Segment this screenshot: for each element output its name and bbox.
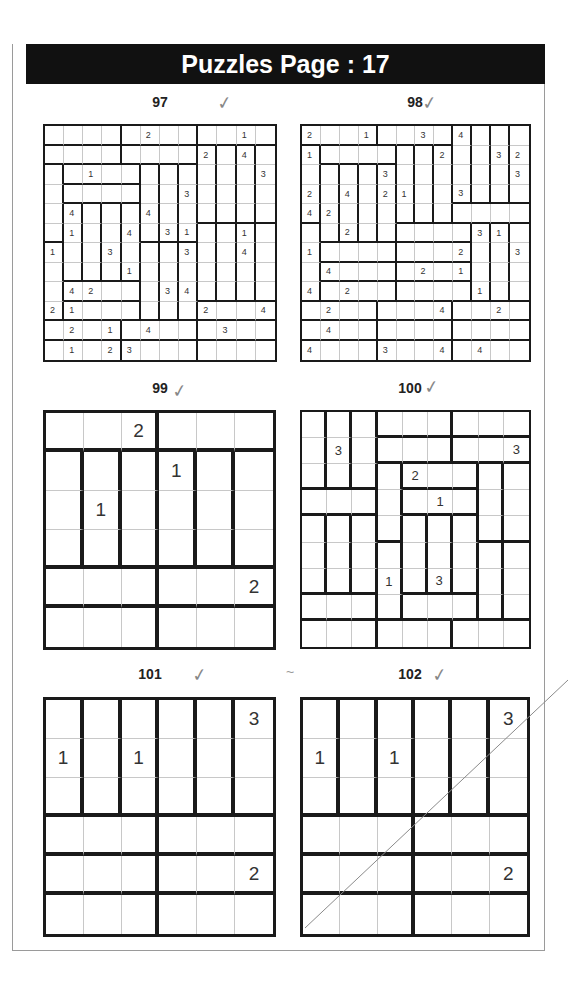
grid-cell[interactable]	[434, 204, 453, 224]
grid-cell[interactable]	[256, 204, 275, 224]
grid-cell[interactable]: 2	[141, 126, 160, 146]
grid-cell[interactable]: 1	[64, 302, 83, 322]
grid-cell[interactable]	[490, 739, 527, 778]
grid-cell[interactable]	[491, 341, 510, 361]
grid-cell[interactable]	[359, 263, 378, 283]
grid-cell[interactable]: 3	[256, 165, 275, 185]
grid-cell[interactable]	[378, 595, 403, 621]
grid-cell[interactable]: 3	[217, 321, 236, 341]
grid-cell[interactable]: 4	[321, 263, 340, 283]
grid-cell[interactable]	[46, 856, 84, 895]
grid-cell[interactable]: 1	[359, 126, 378, 146]
grid-cell[interactable]	[84, 778, 122, 817]
grid-cell[interactable]	[510, 321, 529, 341]
grid-cell[interactable]	[302, 516, 327, 542]
grid-cell[interactable]	[46, 530, 84, 569]
grid-cell[interactable]	[84, 569, 122, 608]
grid-cell[interactable]	[340, 243, 359, 263]
grid-cell[interactable]	[237, 204, 256, 224]
grid-cell[interactable]	[237, 341, 256, 361]
grid-cell[interactable]	[415, 817, 452, 856]
grid-cell[interactable]	[45, 204, 64, 224]
grid-cell[interactable]	[45, 126, 64, 146]
grid-cell[interactable]	[160, 321, 179, 341]
grid-cell[interactable]	[302, 438, 327, 464]
grid-cell[interactable]: 3	[179, 185, 198, 205]
grid-cell[interactable]	[510, 185, 529, 205]
grid-cell[interactable]	[256, 146, 275, 166]
grid-cell[interactable]	[45, 185, 64, 205]
grid-cell[interactable]	[415, 185, 434, 205]
grid-cell[interactable]	[256, 185, 275, 205]
grid-cell[interactable]	[64, 165, 83, 185]
grid-cell[interactable]	[160, 302, 179, 322]
grid-cell[interactable]: 2	[321, 302, 340, 322]
grid-cell[interactable]	[340, 263, 359, 283]
grid-cell[interactable]	[303, 778, 340, 817]
grid-cell[interactable]	[378, 302, 397, 322]
grid-cell[interactable]	[479, 412, 504, 438]
grid-cell[interactable]	[45, 146, 64, 166]
grid-cell[interactable]	[359, 302, 378, 322]
grid-cell[interactable]	[403, 543, 428, 569]
grid-cell[interactable]	[179, 341, 198, 361]
grid-cell[interactable]	[453, 595, 478, 621]
grid-cell[interactable]	[235, 452, 273, 491]
grid-cell[interactable]	[84, 413, 122, 452]
grid-cell[interactable]	[340, 204, 359, 224]
grid-cell[interactable]	[415, 321, 434, 341]
grid-cell[interactable]	[352, 621, 377, 647]
grid-cell[interactable]	[434, 126, 453, 146]
grid-cell[interactable]	[102, 282, 121, 302]
grid-cell[interactable]	[453, 621, 478, 647]
grid-cell[interactable]	[397, 224, 416, 244]
grid-cell[interactable]	[340, 321, 359, 341]
grid-cell[interactable]	[217, 263, 236, 283]
grid-cell[interactable]	[378, 263, 397, 283]
grid-cell[interactable]	[64, 185, 83, 205]
grid-cell[interactable]: 4	[256, 302, 275, 322]
grid-cell[interactable]	[453, 302, 472, 322]
grid-cell[interactable]	[397, 165, 416, 185]
grid-cell[interactable]	[46, 895, 84, 934]
grid-cell[interactable]	[197, 452, 235, 491]
grid-cell[interactable]	[403, 595, 428, 621]
grid-cell[interactable]	[83, 321, 102, 341]
grid-cell[interactable]	[359, 341, 378, 361]
grid-cell[interactable]	[237, 321, 256, 341]
grid-cell[interactable]	[453, 569, 478, 595]
grid-cell[interactable]	[122, 146, 141, 166]
grid-cell[interactable]: 2	[302, 185, 321, 205]
grid-cell[interactable]	[179, 263, 198, 283]
grid-cell[interactable]: 1	[428, 490, 453, 516]
grid-cell[interactable]	[256, 243, 275, 263]
grid-cell[interactable]	[504, 569, 529, 595]
grid-cell[interactable]	[256, 263, 275, 283]
grid-cell[interactable]	[141, 146, 160, 166]
grid-cell[interactable]: 1	[122, 739, 160, 778]
grid-cell[interactable]: 3	[472, 224, 491, 244]
grid-cell[interactable]	[510, 204, 529, 224]
grid-cell[interactable]: 3	[491, 146, 510, 166]
grid-cell[interactable]	[327, 621, 352, 647]
grid-cell[interactable]	[302, 412, 327, 438]
grid-cell[interactable]	[302, 263, 321, 283]
grid-cell[interactable]	[378, 204, 397, 224]
grid-cell[interactable]	[397, 282, 416, 302]
grid-cell[interactable]	[141, 185, 160, 205]
grid-cell[interactable]	[45, 165, 64, 185]
grid-cell[interactable]	[434, 282, 453, 302]
grid-cell[interactable]	[321, 146, 340, 166]
grid-cell[interactable]	[352, 516, 377, 542]
grid-cell[interactable]: 4	[340, 185, 359, 205]
grid-cell[interactable]	[434, 224, 453, 244]
grid-cell[interactable]	[160, 341, 179, 361]
grid-cell[interactable]	[197, 856, 235, 895]
grid-cell[interactable]	[141, 224, 160, 244]
grid-cell[interactable]	[46, 700, 84, 739]
grid-cell[interactable]	[321, 224, 340, 244]
grid-cell[interactable]: 3	[179, 243, 198, 263]
grid-cell[interactable]	[479, 595, 504, 621]
grid-cell[interactable]	[197, 778, 235, 817]
grid-cell[interactable]	[428, 438, 453, 464]
